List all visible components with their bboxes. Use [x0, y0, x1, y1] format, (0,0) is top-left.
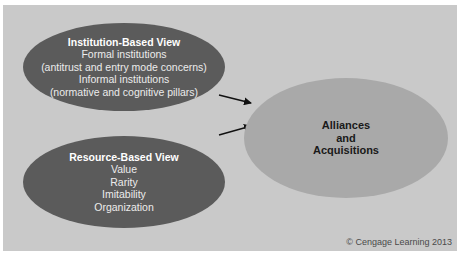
node-title-line: Alliances: [322, 119, 370, 132]
node-line: (normative and cognitive pillars): [50, 86, 198, 99]
institution-based-view-node: Institution-Based View Formal institutio…: [23, 23, 225, 111]
copyright-credit: © Cengage Learning 2013: [346, 237, 452, 247]
node-line: Organization: [94, 201, 154, 214]
arrow-institution-to-outcome: [219, 95, 251, 103]
node-line: Value: [111, 163, 137, 176]
node-line: Imitability: [102, 188, 146, 201]
node-line: Rarity: [110, 176, 137, 189]
node-line: (antitrust and entry mode concerns): [41, 61, 207, 74]
diagram-panel: Institution-Based View Formal institutio…: [3, 5, 457, 251]
node-title-line: and: [336, 132, 356, 145]
node-line: Formal institutions: [81, 48, 166, 61]
node-line: Informal institutions: [79, 73, 169, 86]
alliances-and-acquisitions-node: Alliances and Acquisitions: [244, 78, 448, 198]
resource-based-view-node: Resource-Based View Value Rarity Imitabi…: [23, 136, 225, 228]
node-title-line: Acquisitions: [313, 144, 379, 157]
node-title: Resource-Based View: [69, 151, 179, 164]
node-title: Institution-Based View: [68, 36, 180, 49]
